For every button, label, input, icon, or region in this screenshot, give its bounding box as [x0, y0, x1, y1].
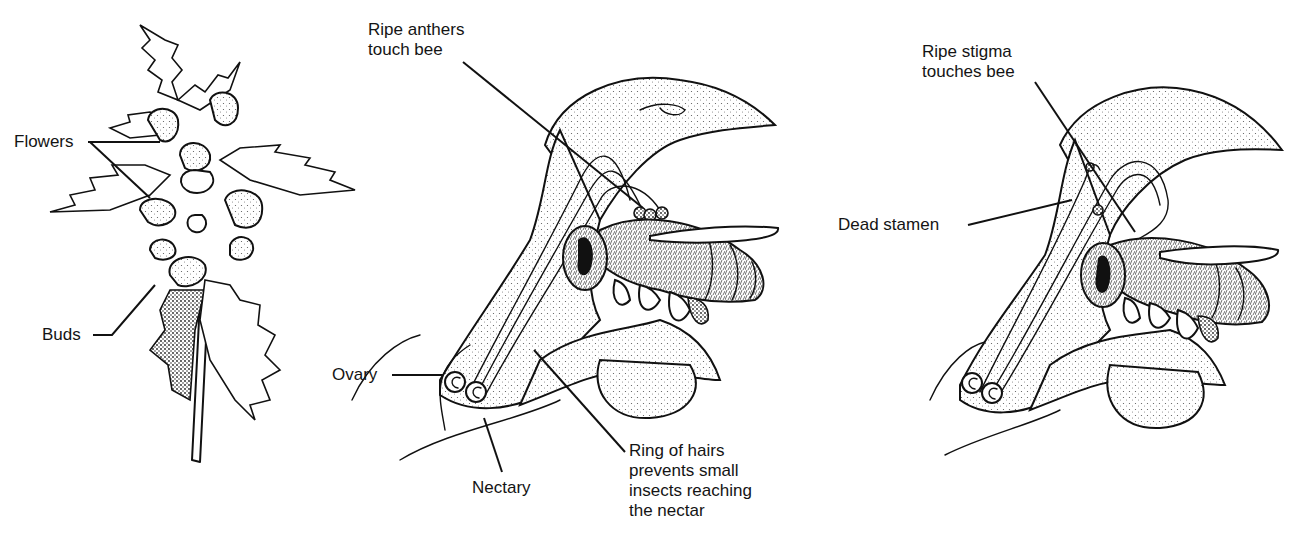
label-ripe-anthers: Ripe anthers touch bee: [368, 20, 464, 60]
young-flower-section: [352, 78, 778, 460]
label-ripe-stigma: Ripe stigma touches bee: [922, 42, 1015, 82]
older-flower-section: [930, 87, 1282, 455]
label-nectary: Nectary: [472, 478, 531, 498]
label-flowers: Flowers: [14, 132, 74, 152]
label-ring-of-hairs: Ring of hairs prevents small insects rea…: [629, 441, 752, 521]
plant-illustration: [50, 25, 355, 462]
label-buds: Buds: [42, 325, 81, 345]
label-dead-stamen: Dead stamen: [838, 215, 939, 235]
label-ovary: Ovary: [332, 365, 377, 385]
bee-icon-older: [1081, 238, 1278, 342]
diagram-canvas: Flowers Buds Ripe anthers touch bee Ovar…: [0, 0, 1290, 539]
